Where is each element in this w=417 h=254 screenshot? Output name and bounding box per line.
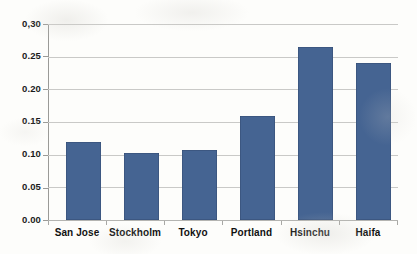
gridline-0.00-baseline [48,220,398,221]
bar-hsinchu [298,47,333,220]
bar-chart: 0,30 0.25 0.20 0.15 0.10 0.05 0.00 [0,0,417,254]
gridline-0.30 [48,24,398,25]
x-tick-mark [281,221,282,225]
x-tick-mark [106,221,107,225]
y-tick-label-0.10: 0.10 [1,149,41,159]
x-tick-mark [164,221,165,225]
y-tick-label-0.30: 0,30 [1,19,41,29]
x-tick-mark [397,221,398,225]
gridline-0.25 [48,57,398,58]
y-tick-label-0.25: 0.25 [1,51,41,61]
x-label-san-jose: San Jose [48,226,106,240]
x-label-stockholm: Stockholm [106,226,164,240]
bar-haifa [356,63,391,220]
x-tick-mark [222,221,223,225]
x-tick-mark [48,221,49,225]
x-label-haifa: Haifa [339,226,397,240]
x-label-tokyo: Tokyo [164,226,222,240]
y-axis-tick-labels: 0,30 0.25 0.20 0.15 0.10 0.05 0.00 [0,0,41,254]
y-tick-label-0.00: 0.00 [1,215,41,225]
x-tick-mark [339,221,340,225]
y-tick-label-0.20: 0.20 [1,84,41,94]
bar-stockholm [124,153,159,220]
y-tick-label-0.05: 0.05 [1,182,41,192]
bar-san-jose [66,142,101,220]
bar-tokyo [182,150,217,220]
x-axis-category-labels: San Jose Stockholm Tokyo Portland Hsinch… [48,226,398,248]
x-label-hsinchu: Hsinchu [281,226,339,240]
x-label-portland: Portland [222,226,281,240]
gridline-0.15 [48,122,398,123]
plot-area [48,24,398,220]
y-tick-label-0.15: 0.15 [1,116,41,126]
bar-portland [240,116,275,221]
gridline-0.20 [48,89,398,90]
